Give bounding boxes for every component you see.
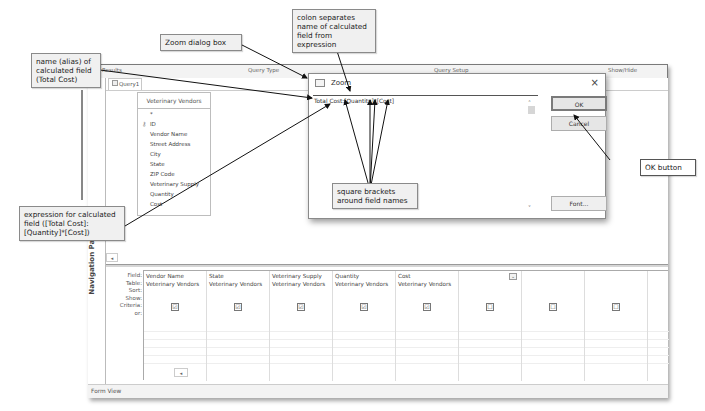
field-street-address[interactable]: Street Address — [150, 139, 210, 149]
zoom-dialog-title: Zoom — [331, 79, 351, 87]
callout-colon: colon separates name of calculated field… — [292, 9, 376, 53]
scroll-thumb[interactable] — [528, 106, 535, 114]
field-cost[interactable]: Cost — [150, 199, 210, 209]
grid-column-quantity[interactable]: Quantity Veterinary Vendors ☑ — [333, 271, 396, 381]
table-pane-scroll-left[interactable]: ◂ — [106, 253, 118, 262]
field-quantity[interactable]: Quantity — [150, 189, 210, 199]
show-checkbox[interactable]: ☑ — [423, 303, 431, 311]
grid-table-cell[interactable]: Veterinary Vendors — [272, 281, 325, 287]
field-state[interactable]: State — [150, 159, 210, 169]
pane-splitter[interactable] — [106, 264, 668, 267]
grid-column-empty-1[interactable]: ⌄ ☐ — [459, 271, 522, 381]
scroll-up-icon[interactable]: ˄ — [528, 99, 531, 106]
grid-column-empty-3[interactable]: ☐ — [585, 271, 648, 381]
grid-column-state[interactable]: State Veterinary Vendors ☑ — [207, 271, 270, 381]
status-bar: Form View — [88, 384, 668, 398]
grid-column-empty-2[interactable]: ☐ — [522, 271, 585, 381]
show-checkbox[interactable]: ☐ — [486, 303, 494, 311]
ok-button[interactable]: OK — [551, 96, 607, 111]
show-checkbox[interactable]: ☑ — [234, 303, 242, 311]
row-label-criteria: Criteria: — [108, 302, 142, 310]
query-icon — [112, 80, 118, 86]
design-grid: Vendor Name Veterinary Vendors ☑ State V… — [143, 270, 668, 380]
row-label-table: Table: — [108, 280, 142, 288]
grid-table-cell[interactable]: Veterinary Vendors — [209, 281, 262, 287]
grid-field-cell[interactable]: Quantity — [335, 273, 359, 279]
show-checkbox[interactable]: ☑ — [360, 303, 368, 311]
row-label-field: Field: — [108, 272, 142, 280]
callout-ok-button: OK button — [640, 159, 696, 176]
primary-key-icon: ⚷ — [142, 119, 146, 129]
show-checkbox[interactable]: ☐ — [549, 303, 557, 311]
scroll-down-icon[interactable]: ˅ — [528, 204, 531, 211]
show-checkbox[interactable]: ☑ — [171, 303, 179, 311]
row-label-sort: Sort: — [108, 287, 142, 295]
ribbon-group-results: Results — [102, 67, 122, 73]
callout-expression: expression for calculated field ([Total … — [19, 206, 125, 241]
grid-field-cell[interactable]: Veterinary Supply — [272, 273, 322, 279]
callout-alias: name (alias) of calculated field (Total … — [31, 53, 101, 88]
callout-brackets: square brackets around field names — [332, 183, 418, 209]
field-id[interactable]: ⚷ID — [150, 119, 210, 129]
close-icon[interactable]: × — [591, 77, 599, 88]
grid-table-cell[interactable]: Veterinary Vendors — [398, 281, 451, 287]
grid-column-vendor-name[interactable]: Vendor Name Veterinary Vendors ☑ — [144, 271, 207, 381]
grid-column-cost[interactable]: Cost Veterinary Vendors ☑ — [396, 271, 459, 381]
field-city[interactable]: City — [150, 149, 210, 159]
grid-field-cell[interactable]: Cost — [398, 273, 410, 279]
grid-scroll-left[interactable]: ◂ — [174, 368, 188, 377]
callout-zoom-dialog: Zoom dialog box — [160, 34, 242, 51]
grid-table-cell[interactable]: Veterinary Vendors — [146, 281, 199, 287]
ribbon-group-show-hide: Show/Hide — [608, 67, 637, 73]
field-veterinary-supply[interactable]: Veterinary Supply — [150, 179, 210, 189]
zoom-dialog-icon — [315, 79, 325, 87]
field-list-veterinary-vendors[interactable]: Veterinary Vendors * ⚷ID Vendor Name Str… — [137, 92, 211, 216]
cancel-button[interactable]: Cancel — [551, 116, 607, 131]
grid-field-cell[interactable]: Vendor Name — [146, 273, 184, 279]
field-all[interactable]: * — [150, 109, 210, 119]
row-label-show: Show: — [108, 295, 142, 303]
field-list-title[interactable]: Veterinary Vendors — [138, 93, 210, 109]
grid-column-veterinary-supply[interactable]: Veterinary Supply Veterinary Vendors ☑ — [270, 271, 333, 381]
grid-field-cell[interactable]: State — [209, 273, 224, 279]
row-label-or: or: — [108, 310, 142, 318]
ribbon-group-query-type: Query Type — [248, 67, 279, 73]
field-vendor-name[interactable]: Vendor Name — [150, 129, 210, 139]
grid-row-labels: Field: Table: Sort: Show: Criteria: or: — [108, 272, 142, 317]
field-zip-code[interactable]: ZIP Code — [150, 169, 210, 179]
field-dropdown-icon[interactable]: ⌄ — [509, 273, 517, 280]
font-button[interactable]: Font... — [551, 196, 607, 211]
show-checkbox[interactable]: ☑ — [297, 303, 305, 311]
grid-table-cell[interactable]: Veterinary Vendors — [335, 281, 388, 287]
show-checkbox[interactable]: ☐ — [612, 303, 620, 311]
